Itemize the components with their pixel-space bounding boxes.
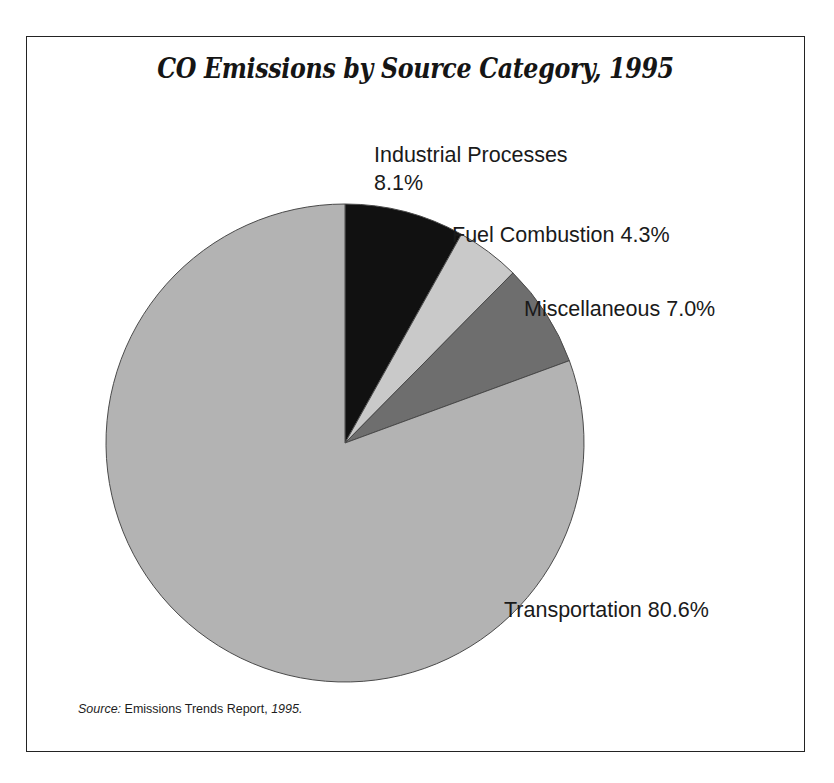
figure-canvas: CO Emissions by Source Category, 1995 In… [0, 0, 834, 783]
source-note-body: Emissions Trends Report, [121, 702, 271, 716]
source-note: Source: Emissions Trends Report, 1995. [78, 702, 302, 716]
slice-label-transportation: Transportation 80.6% [504, 597, 709, 625]
slice-label-industrial-processes-name: Industrial Processes [374, 143, 568, 167]
slice-label-miscellaneous: Miscellaneous 7.0% [524, 296, 715, 324]
chart-title: CO Emissions by Source Category, 1995 [73, 53, 759, 84]
slice-label-fuel-combustion: Fuel Combustion 4.3% [452, 222, 670, 250]
source-note-prefix: Source: [78, 702, 121, 716]
slice-label-industrial-processes: Industrial Processes 8.1% [374, 142, 568, 197]
source-note-year: 1995. [271, 702, 302, 716]
slice-label-industrial-processes-value: 8.1% [374, 170, 568, 198]
